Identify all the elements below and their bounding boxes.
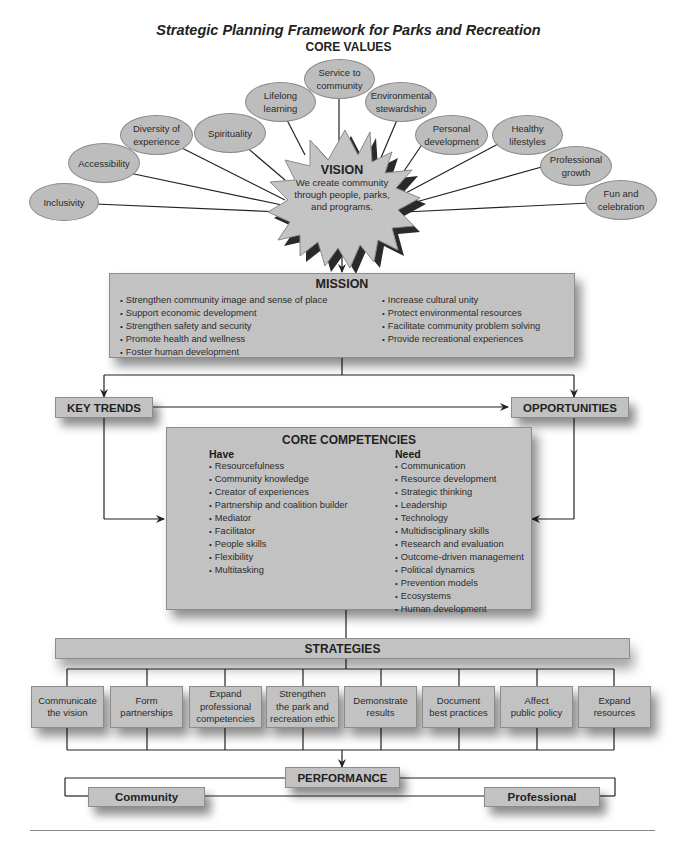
mission-item: Strengthen safety and security	[120, 320, 327, 333]
have-item: Mediator	[209, 512, 348, 525]
mission-box: MISSION Strengthen community image and s…	[109, 273, 575, 358]
value-healthy-lifestyles: Healthy lifestyles	[492, 115, 563, 155]
mission-item: Foster human development	[120, 346, 327, 359]
need-item: Leadership	[395, 499, 524, 512]
value-professional-growth: Professional growth	[540, 146, 612, 186]
need-item: Research and evaluation	[395, 538, 524, 551]
need-item: Human development	[395, 603, 524, 616]
strategies-bar: STRATEGIES	[55, 638, 630, 659]
have-item: Flexibility	[209, 551, 348, 564]
vision-text-line3: and programs.	[272, 201, 412, 213]
diagram-title: Strategic Planning Framework for Parks a…	[0, 22, 697, 38]
value-accessibility: Accessibility	[68, 143, 140, 183]
mission-item: Support economic development	[120, 307, 327, 320]
strategy-expand-professional-competencies: Expandprofessionalcompetencies	[189, 686, 262, 728]
need-item: Resource development	[395, 473, 524, 486]
performance-box: PERFORMANCE	[285, 767, 400, 788]
strategy-form-partnerships: Formpartnerships	[110, 686, 183, 728]
mission-right-list: Increase cultural unity Protect environm…	[382, 294, 540, 346]
core-competencies-heading: CORE COMPETENCIES	[167, 433, 531, 447]
strategy-expand-resources: Expandresources	[578, 686, 651, 728]
strategy-affect-public-policy: Affectpublic policy	[500, 686, 573, 728]
have-item: Partnership and coalition builder	[209, 499, 348, 512]
value-environmental-stewardship: Environmental stewardship	[365, 82, 437, 122]
mission-heading: MISSION	[110, 277, 574, 291]
have-item: Community knowledge	[209, 473, 348, 486]
vision-text-line2: through people, parks,	[272, 189, 412, 201]
value-service-to-community: Service to community	[304, 59, 375, 99]
have-item: Resourcefulness	[209, 460, 348, 473]
strategy-demonstrate-results: Demonstrateresults	[344, 686, 417, 728]
key-trends-box: KEY TRENDS	[55, 397, 153, 418]
mission-item: Provide recreational experiences	[382, 333, 540, 346]
opportunities-box: OPPORTUNITIES	[511, 397, 629, 418]
need-item: Ecosystems	[395, 590, 524, 603]
strategy-communicate-the-vision: Communicatethe vision	[31, 686, 104, 728]
need-item: Political dynamics	[395, 564, 524, 577]
need-item: Multidisciplinary skills	[395, 525, 524, 538]
mission-item: Facilitate community problem solving	[382, 320, 540, 333]
have-column: Have Resourcefulness Community knowledge…	[209, 448, 348, 577]
value-lifelong-learning: Lifelong learning	[245, 82, 316, 122]
need-heading: Need	[395, 448, 524, 460]
value-diversity-of-experience: Diversity of experience	[120, 115, 193, 155]
need-item: Strategic thinking	[395, 486, 524, 499]
have-item: People skills	[209, 538, 348, 551]
vision-text-line1: We create community	[272, 177, 412, 189]
have-item: Multitasking	[209, 564, 348, 577]
footer-divider	[30, 830, 655, 831]
need-item: Prevention models	[395, 577, 524, 590]
need-item: Outcome-driven management	[395, 551, 524, 564]
mission-left-list: Strengthen community image and sense of …	[120, 294, 327, 359]
need-column: Need Communication Resource development …	[395, 448, 524, 616]
core-values-heading: CORE VALUES	[0, 40, 697, 54]
mission-item: Strengthen community image and sense of …	[120, 294, 327, 307]
value-personal-development: Personal development	[415, 115, 488, 155]
performance-community-box: Community	[88, 787, 205, 807]
value-inclusivity: Inclusivity	[29, 183, 99, 221]
have-item: Facilitator	[209, 525, 348, 538]
core-competencies-box: CORE COMPETENCIES Have Resourcefulness C…	[166, 427, 532, 610]
mission-item: Promote health and wellness	[120, 333, 327, 346]
value-fun-and-celebration: Fun and celebration	[585, 180, 657, 220]
vision-statement: VISION We create community through peopl…	[272, 163, 412, 213]
performance-professional-box: Professional	[484, 787, 600, 807]
mission-item: Increase cultural unity	[382, 294, 540, 307]
value-spirituality: Spirituality	[194, 113, 266, 153]
have-heading: Have	[209, 448, 348, 460]
vision-heading: VISION	[272, 163, 412, 177]
need-item: Technology	[395, 512, 524, 525]
have-item: Creator of experiences	[209, 486, 348, 499]
need-item: Communication	[395, 460, 524, 473]
strategy-strengthen-park-recreation-ethic: Strengthenthe park andrecreation ethic	[266, 686, 339, 728]
mission-item: Protect environmental resources	[382, 307, 540, 320]
strategy-document-best-practices: Documentbest practices	[422, 686, 495, 728]
